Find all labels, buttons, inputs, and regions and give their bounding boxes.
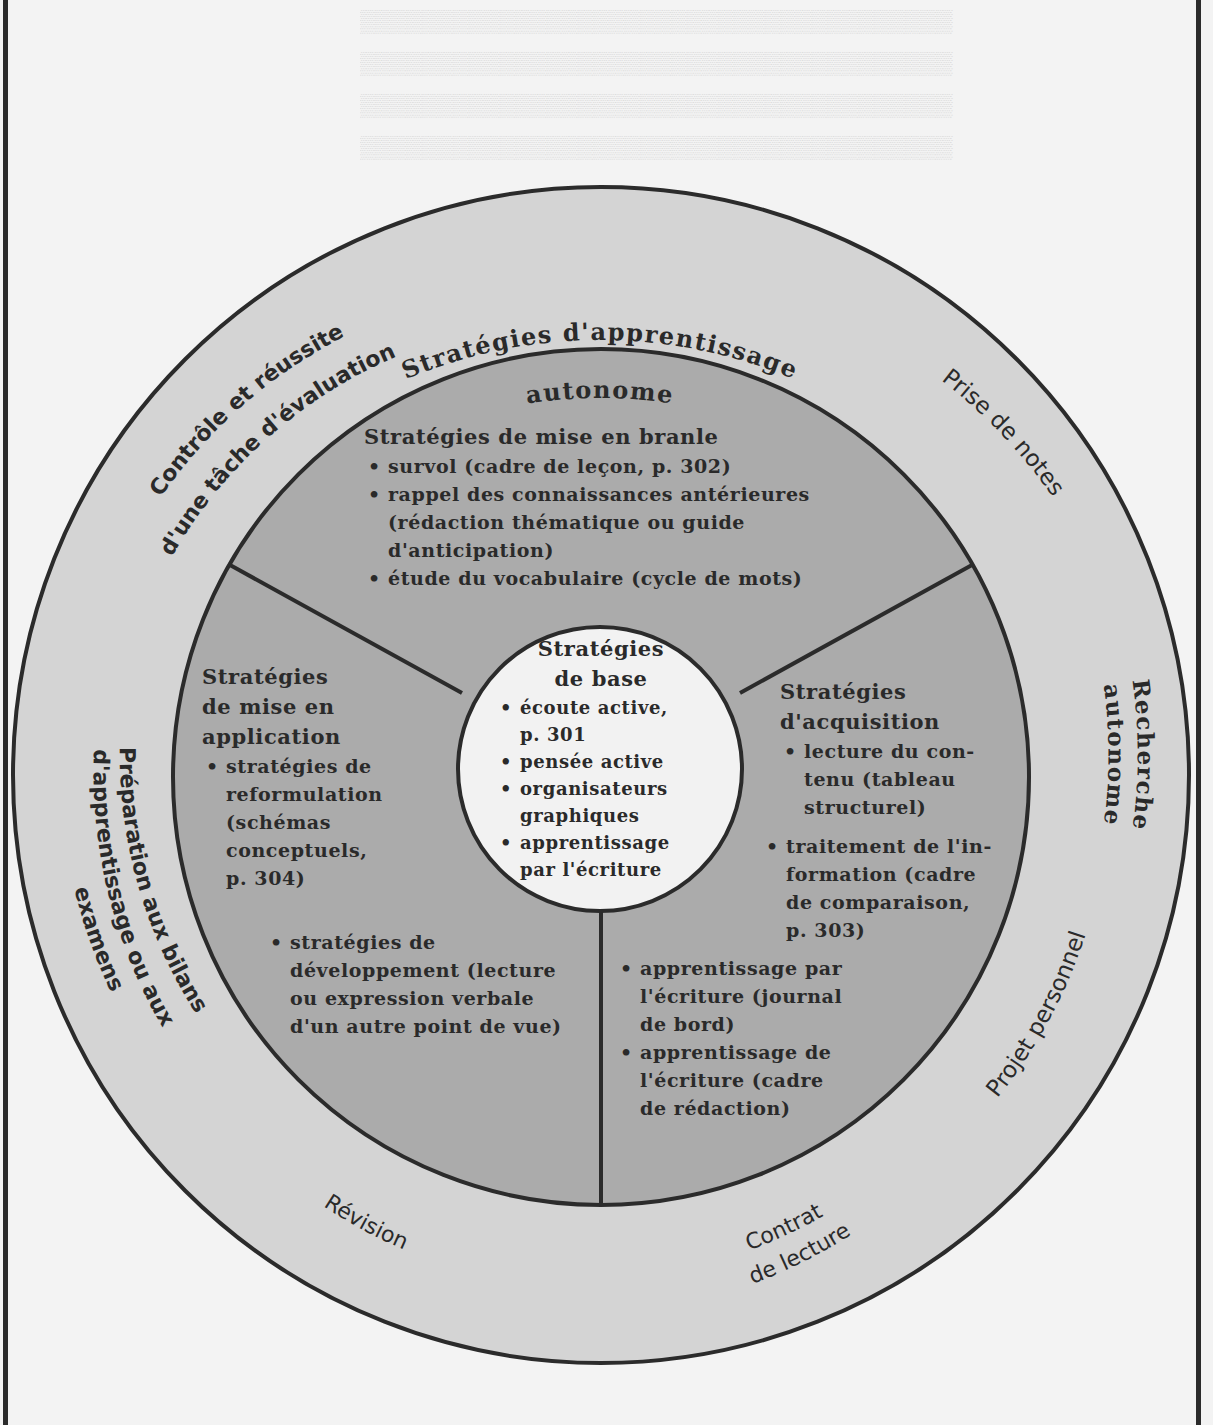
sector-title: Stratégies d'acquisition: [780, 677, 975, 737]
list-item: rappel des connaissances antérieures (ré…: [364, 480, 810, 564]
list-item: étude du vocabulaire (cycle de mots): [364, 564, 810, 592]
sector-mise-en-application-item2: stratégies de développement (lecture ou …: [266, 928, 562, 1040]
sector-acquisition-item2: traitement de l'in- formation (cadre de …: [762, 832, 992, 944]
list-item: organisateurs graphiques: [496, 775, 716, 829]
center-strategies-de-base: Stratégies de base écoute active, p. 301…: [496, 634, 716, 883]
list-item: apprentissage par l'écriture (journal de…: [616, 954, 842, 1038]
sector-mise-en-application: Stratégies de mise en application straté…: [202, 662, 383, 892]
sector-acquisition: Stratégies d'acquisition lecture du con-…: [780, 677, 975, 821]
list-item: apprentissage de l'écriture (cadre de ré…: [616, 1038, 842, 1122]
list-item: apprentissage par l'écriture: [496, 829, 716, 883]
list-item: stratégies de reformulation (schémas con…: [202, 752, 383, 892]
sector-mise-en-branle: Stratégies de mise en branle survol (cad…: [364, 422, 810, 592]
list-item: lecture du con- tenu (tableau structurel…: [780, 737, 975, 821]
sector-acquisition-items-lower: apprentissage par l'écriture (journal de…: [616, 954, 842, 1122]
sector-title: Stratégies de mise en branle: [364, 422, 810, 452]
list-item: écoute active, p. 301: [496, 694, 716, 748]
center-title: Stratégies de base: [496, 634, 716, 694]
sector-title: Stratégies de mise en application: [202, 662, 383, 752]
list-item: traitement de l'in- formation (cadre de …: [762, 832, 992, 944]
list-item: stratégies de développement (lecture ou …: [266, 928, 562, 1040]
list-item: survol (cadre de leçon, p. 302): [364, 452, 810, 480]
list-item: pensée active: [496, 748, 716, 775]
